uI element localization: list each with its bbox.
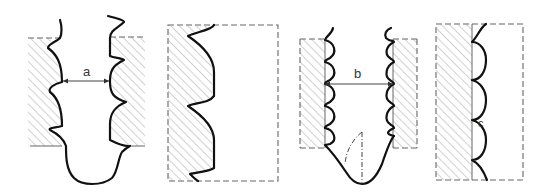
panel-4: c (436, 24, 523, 180)
panel-2 (168, 25, 278, 181)
panel-1: a (28, 16, 145, 184)
label-b: b (354, 66, 361, 81)
arrowhead-right-icon (104, 79, 109, 84)
hatched-material-right-3 (393, 39, 417, 148)
label-a: a (83, 64, 91, 79)
label-c: c (478, 117, 484, 129)
scalloped-profile-detail-4 (472, 24, 487, 180)
arc-construction-line (345, 132, 362, 164)
panel-3: b (300, 28, 417, 184)
hatched-material-left (28, 38, 62, 146)
hatched-material-left-3 (300, 39, 325, 148)
scalloped-profile-left (325, 28, 394, 184)
diagram-canvas: a b c (0, 0, 552, 192)
hatched-material-right (110, 37, 145, 146)
arrowhead-left-icon (63, 79, 68, 84)
hatched-material-4 (436, 24, 472, 180)
hatched-material-2 (168, 25, 214, 181)
